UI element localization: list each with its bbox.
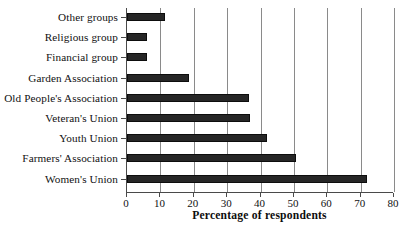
gridline-60 [327,8,328,192]
plot-area [126,8,393,193]
gridline-50 [294,8,295,192]
category-label: Youth Union [59,132,118,144]
bar [127,114,250,122]
bar [127,74,189,82]
category-label: Farmers' Association [22,152,118,164]
bar [127,33,147,41]
y-axis-tick [121,138,126,139]
y-axis-tick [121,17,126,18]
y-axis-tick [121,179,126,180]
category-label: Veteran's Union [45,112,118,124]
category-label: Garden Association [28,72,118,84]
gridline-70 [361,8,362,192]
x-axis-title: Percentage of respondents [126,209,393,222]
horizontal-bar-chart: Other groupsReligious groupFinancial gro… [0,0,409,227]
bar [127,175,367,183]
bar [127,134,267,142]
y-axis-tick [121,118,126,119]
y-axis-tick [121,78,126,79]
category-axis: Other groupsReligious groupFinancial gro… [0,0,123,227]
bar [127,53,147,61]
gridline-80 [394,8,395,192]
category-label: Old People's Association [4,92,118,104]
y-axis-tick [121,158,126,159]
y-axis-tick [121,98,126,99]
category-label: Religious group [45,31,118,43]
y-axis-tick [121,57,126,58]
category-label: Other groups [58,11,118,23]
bar [127,154,296,162]
bar [127,94,249,102]
category-label: Financial group [46,51,118,63]
y-axis-tick [121,37,126,38]
category-label: Women's Union [45,173,118,185]
gridline-40 [261,8,262,192]
bar [127,13,165,21]
